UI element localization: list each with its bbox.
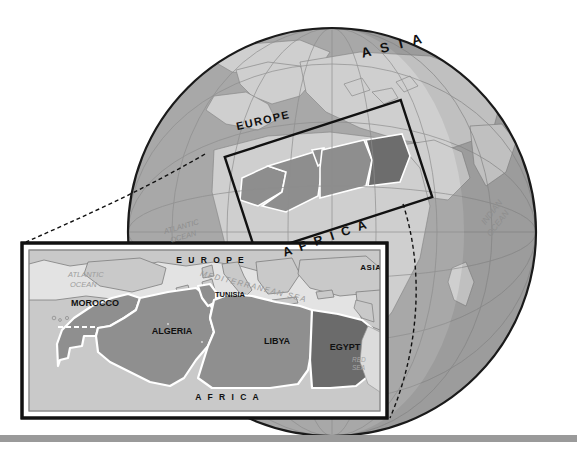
inset-label-red-sea-2: SEA — [352, 364, 365, 371]
country-label-algeria: ALGERIA — [152, 326, 193, 336]
country-label-libya: LIBYA — [264, 336, 291, 346]
inset-label-atlantic-ocean-2: OCEAN — [70, 280, 97, 289]
map-figure: ATLANTIC OCEAN MEDITERRANEAN SEA RED SEA… — [0, 0, 577, 457]
inset-island-c — [65, 316, 68, 319]
country-label-egypt: EGYPT — [330, 342, 361, 352]
inset-dot-b — [201, 341, 203, 343]
inset-dot-a — [167, 323, 169, 325]
baseline-bar — [0, 435, 577, 442]
country-libya[interactable] — [198, 294, 312, 388]
inset-island-b — [59, 319, 62, 322]
map-canvas: ATLANTIC OCEAN MEDITERRANEAN SEA RED SEA… — [0, 0, 577, 457]
inset-land-cyprus — [316, 290, 334, 299]
country-label-tunisia: TUNISIA — [215, 290, 246, 299]
inset-label-red-sea: RED — [352, 356, 366, 363]
inset-label-europe: E U R O P E — [176, 255, 246, 265]
inset-label-atlantic-ocean: ATLANTIC — [67, 270, 104, 279]
inset-contents: ATLANTIC OCEAN MEDITERRANEAN SEA RED SEA… — [29, 250, 382, 411]
inset-map[interactable]: ATLANTIC OCEAN MEDITERRANEAN SEA RED SEA… — [22, 243, 387, 418]
inset-island-a — [52, 316, 56, 320]
inset-label-africa: A F R I C A — [195, 392, 260, 402]
inset-label-asia: ASIA — [360, 263, 382, 272]
country-label-morocco: MOROCCO — [71, 298, 119, 308]
